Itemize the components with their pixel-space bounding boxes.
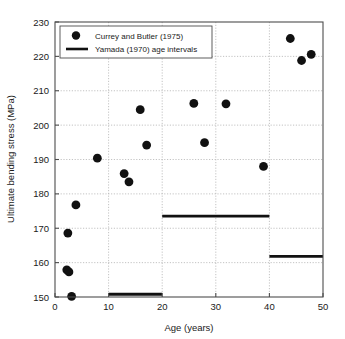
x-tick-label: 20 xyxy=(157,301,168,312)
data-point-marker xyxy=(286,34,295,43)
data-point-marker xyxy=(125,177,134,186)
data-point-marker xyxy=(136,105,145,114)
y-tick-label: 220 xyxy=(33,51,49,62)
y-tick-label: 150 xyxy=(33,292,49,303)
data-point-marker xyxy=(120,169,129,178)
x-axis-tick-labels: 01020304050 xyxy=(52,301,328,312)
y-tick-label: 200 xyxy=(33,120,49,131)
data-point-marker xyxy=(259,162,268,171)
data-point-marker xyxy=(200,138,209,147)
data-point-marker xyxy=(297,56,306,65)
y-tick-label: 160 xyxy=(33,257,49,268)
data-point-marker xyxy=(189,99,198,108)
data-point-marker xyxy=(93,154,102,163)
data-point-marker xyxy=(72,200,81,209)
data-point-marker xyxy=(307,50,316,59)
y-tick-label: 170 xyxy=(33,223,49,234)
scatter-plot: 150160170180190200210220230 01020304050 … xyxy=(0,0,345,339)
legend-marker-circle-icon xyxy=(72,31,80,39)
y-axis-label: Ultimate bending stress (MPa) xyxy=(5,95,16,223)
x-tick-label: 40 xyxy=(264,301,275,312)
y-tick-label: 190 xyxy=(33,154,49,165)
y-tick-label: 180 xyxy=(33,188,49,199)
data-point-marker xyxy=(63,229,72,238)
chart-figure: 150160170180190200210220230 01020304050 … xyxy=(0,0,345,339)
y-tick-label: 210 xyxy=(33,85,49,96)
x-tick-label: 0 xyxy=(52,301,57,312)
legend-label-scatter: Currey and Butler (1975) xyxy=(95,32,183,41)
chart-legend: Currey and Butler (1975) Yamada (1970) a… xyxy=(60,26,212,58)
x-tick-label: 50 xyxy=(318,301,329,312)
data-point-marker xyxy=(65,268,74,277)
x-axis-label: Age (years) xyxy=(164,322,213,333)
data-point-marker xyxy=(142,141,151,150)
x-tick-label: 10 xyxy=(103,301,114,312)
y-axis-tick-labels: 150160170180190200210220230 xyxy=(33,17,49,303)
y-tick-label: 230 xyxy=(33,17,49,28)
data-point-marker xyxy=(67,292,76,301)
data-point-marker xyxy=(222,99,231,108)
x-tick-label: 30 xyxy=(211,301,222,312)
legend-label-intervals: Yamada (1970) age intervals xyxy=(95,45,197,54)
